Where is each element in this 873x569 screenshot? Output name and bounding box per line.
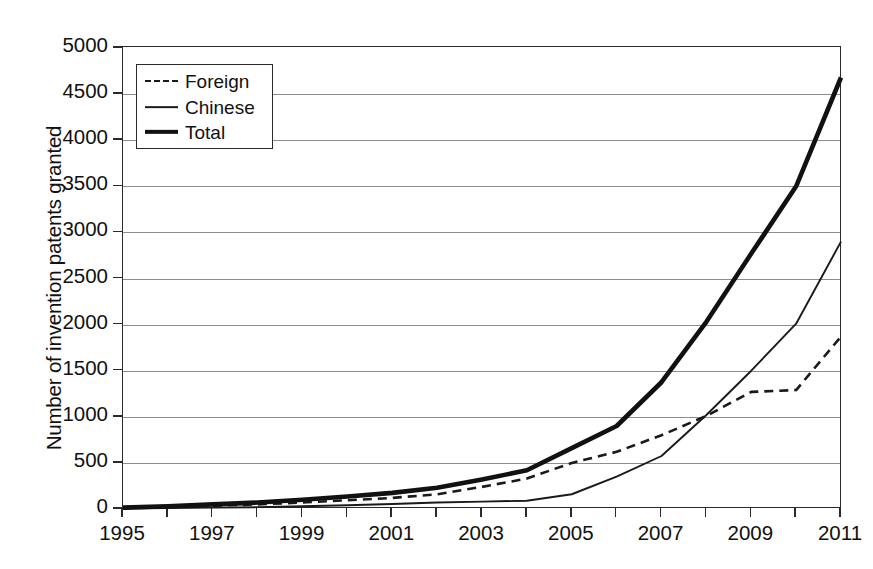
x-axis-tick-mark [390,508,392,517]
y-axis-tick-label: 1000 [0,402,108,426]
x-axis-tick-mark [660,508,662,517]
legend-item-chinese: Chinese [145,94,255,120]
x-axis-tick-mark [750,508,752,517]
thick-line-swatch-icon [145,125,178,139]
thin-line-swatch-icon [145,100,178,114]
y-axis-tick-label: 2500 [0,264,108,288]
x-axis-tick-mark [256,508,258,517]
x-axis-tick-mark [615,508,617,517]
y-axis-tick-mark [113,185,122,187]
x-axis-tick-mark [525,508,527,517]
x-axis-tick-mark [435,508,437,517]
x-axis-tick-mark [166,508,168,517]
x-axis-tick-mark [121,508,123,517]
dashed-line-swatch-icon [145,74,178,88]
y-axis-tick-label: 0 [0,494,108,518]
x-axis-tick-mark [480,508,482,517]
y-axis-tick-label: 500 [0,448,108,472]
x-axis-tick-mark [705,508,707,517]
y-axis-tick-mark [113,369,122,371]
x-axis-tick-label: 2007 [621,521,701,545]
legend-label-chinese: Chinese [185,98,255,117]
y-axis-tick-mark [113,277,122,279]
legend-item-foreign: Foreign [145,68,249,94]
y-axis-tick-label: 3500 [0,171,108,195]
x-axis-tick-mark [839,508,841,517]
x-axis-tick-label: 2011 [800,521,873,545]
y-axis-tick-label: 2000 [0,310,108,334]
y-axis-tick-mark [113,46,122,48]
x-axis-tick-label: 2003 [441,521,521,545]
y-axis-tick-label: 4000 [0,125,108,149]
y-axis-tick-label: 5000 [0,33,108,57]
x-axis-tick-label: 2009 [710,521,790,545]
chart-figure: Number of invention patents granted 0500… [0,0,873,569]
y-axis-tick-mark [113,92,122,94]
x-axis-tick-label: 2005 [531,521,611,545]
y-axis-tick-mark [113,461,122,463]
x-axis-tick-label: 2001 [351,521,431,545]
legend: Foreign Chinese Total [136,64,273,149]
y-axis-tick-mark [113,138,122,140]
x-axis-tick-mark [211,508,213,517]
x-axis-tick-label: 1997 [172,521,252,545]
x-axis-tick-mark [346,508,348,517]
y-axis-tick-label: 4500 [0,79,108,103]
y-axis-tick-mark [113,323,122,325]
x-axis-tick-label: 1995 [82,521,162,545]
x-axis-tick-mark [794,508,796,517]
legend-item-total: Total [145,119,225,145]
legend-label-total: Total [185,123,225,142]
y-axis-tick-label: 3000 [0,217,108,241]
legend-label-foreign: Foreign [185,72,249,91]
x-axis-tick-mark [570,508,572,517]
x-axis-tick-label: 1999 [262,521,342,545]
y-axis-tick-label: 1500 [0,356,108,380]
y-axis-tick-mark [113,415,122,417]
series-line-foreign [123,337,841,508]
y-axis-tick-mark [113,231,122,233]
x-axis-tick-mark [301,508,303,517]
